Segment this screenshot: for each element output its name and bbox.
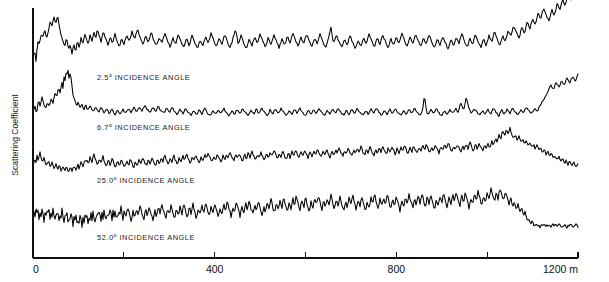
- trace-2-5: [33, 0, 578, 61]
- series-label-text: INCIDENCE ANGLE: [119, 233, 195, 242]
- degree-symbol-icon: o: [109, 122, 112, 128]
- plot-area: 04008001200 m: [0, 0, 609, 282]
- series-label-25-0: 25.0o INCIDENCE ANGLE: [97, 175, 195, 185]
- series-label-2-5: 2.5o INCIDENCE ANGLE: [97, 72, 190, 82]
- series-angle-value: 25.0: [97, 176, 114, 185]
- series-label-text: INCIDENCE ANGLE: [119, 176, 195, 185]
- series-label-text: INCIDENCE ANGLE: [115, 123, 191, 132]
- x-tick-label: 400: [206, 263, 224, 275]
- series-label-6-7: 6.7o INCIDENCE ANGLE: [97, 122, 190, 132]
- scattering-coefficient-chart: 04008001200 m Scattering Coefficient 2.5…: [0, 0, 609, 282]
- x-tick-label: 1200 m: [543, 263, 578, 275]
- series-angle-value: 2.5: [97, 73, 109, 82]
- series-angle-value: 6.7: [97, 123, 109, 132]
- x-tick-label: 0: [33, 263, 39, 275]
- series-label-52-0: 52.0o INCIDENCE ANGLE: [97, 232, 195, 242]
- series-angle-value: 52.0: [97, 233, 114, 242]
- degree-symbol-icon: o: [114, 232, 117, 238]
- degree-symbol-icon: o: [109, 72, 112, 78]
- y-axis-label: Scattering Coefficient: [10, 75, 20, 195]
- series-label-text: INCIDENCE ANGLE: [115, 73, 191, 82]
- degree-symbol-icon: o: [114, 175, 117, 181]
- x-tick-label: 800: [388, 263, 406, 275]
- trace-25-0: [33, 127, 578, 171]
- traces-group: [33, 0, 578, 228]
- x-axis-ticks: 04008001200 m: [33, 252, 578, 275]
- trace-52-0: [33, 188, 578, 228]
